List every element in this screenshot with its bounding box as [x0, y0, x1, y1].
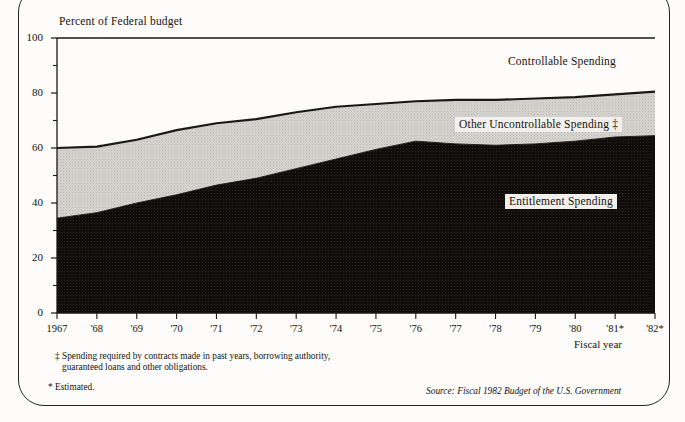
x-tick-label-82: '82*: [631, 324, 679, 335]
footnote-estimated: * Estimated.: [48, 381, 94, 393]
figure-container: Percent of Federal budget 100806040200 1…: [0, 0, 685, 422]
series-label-controllable-spending: Controllable Spending: [508, 55, 616, 67]
y-tick-label-100: 100: [15, 32, 43, 43]
series-label-entitlement-spending: Entitlement Spending: [505, 194, 617, 209]
y-tick-label-20: 20: [15, 252, 43, 263]
series-label-other-uncontrollable-spending: Other Uncontrollable Spending ‡: [455, 117, 622, 132]
y-tick-label-40: 40: [15, 197, 43, 208]
footnote-dagger-line2: guaranteed loans and other obligations.: [62, 361, 208, 373]
source-note: Source: Fiscal 1982 Budget of the U.S. G…: [426, 386, 621, 396]
y-tick-label-0: 0: [15, 307, 43, 318]
y-tick-label-60: 60: [15, 142, 43, 153]
x-axis-title: Fiscal year: [574, 338, 622, 350]
y-tick-label-80: 80: [15, 87, 43, 98]
